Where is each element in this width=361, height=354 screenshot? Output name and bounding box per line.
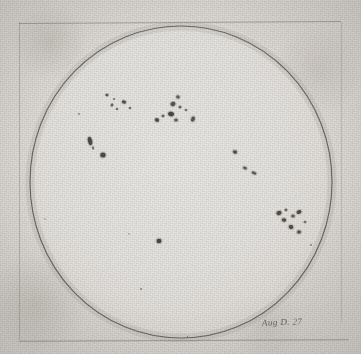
plate-caption: Aug D. 27: [262, 316, 303, 327]
sunspot-plate: Aug D. 27 Solar disk drawing with sunspo…: [0, 0, 361, 354]
paper-grain-coarse: [0, 0, 361, 354]
